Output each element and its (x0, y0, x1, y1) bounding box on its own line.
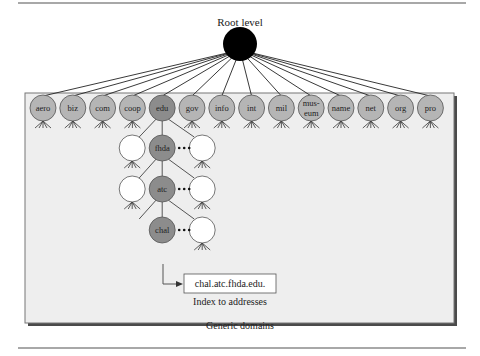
domain-node-biz: biz (60, 95, 86, 121)
domain-label: name (332, 103, 351, 113)
root-edge (162, 50, 240, 96)
dns-tree-diagram: Root level aerobizcomcoopedugovinfointmi… (0, 0, 480, 356)
chain-node-chal: chal (149, 217, 175, 243)
domain-label: pro (425, 103, 436, 113)
domain-label: gov (186, 103, 200, 113)
empty-node (189, 176, 215, 202)
domain-node-org: org (388, 95, 414, 121)
ellipsis-icon (178, 188, 191, 191)
domain-label: info (215, 103, 229, 113)
domain-node-aero: aero (30, 95, 56, 121)
domain-label: coop (124, 103, 141, 113)
domain-node-int: int (239, 95, 265, 121)
domain-label: aero (36, 103, 51, 113)
root-edge (43, 50, 240, 96)
root-edge (132, 50, 240, 96)
root-edge (73, 50, 240, 96)
domain-label: int (247, 103, 257, 113)
ellipsis-icon (178, 147, 191, 150)
domain-node-net: net (358, 95, 384, 121)
domain-label: biz (68, 103, 79, 113)
root-edge (240, 50, 371, 96)
empty-node (119, 135, 145, 161)
ellipsis-icon (178, 229, 191, 232)
empty-node (189, 135, 215, 161)
chain-node-fhda: fhda (149, 135, 175, 161)
empty-node (119, 176, 145, 202)
domain-node-com: com (90, 95, 116, 121)
index-caption: Index to addresses (193, 296, 267, 307)
index-value: chal.atc.fhda.edu. (195, 278, 266, 289)
root-edge (240, 50, 430, 96)
root-node (223, 27, 257, 61)
root-edge (103, 50, 240, 96)
domain-node-museum: mus-eum (298, 95, 324, 121)
domain-label: mus- (303, 98, 320, 108)
svg-text:atc: atc (157, 184, 167, 194)
root-level-label: Root level (217, 16, 263, 28)
domain-node-coop: coop (119, 95, 145, 121)
generic-domains-label: Generic domains (206, 320, 274, 331)
domain-label: com (95, 103, 110, 113)
svg-text:fhda: fhda (155, 143, 170, 153)
domain-node-edu: edu (149, 95, 175, 121)
svg-text:chal: chal (155, 225, 170, 235)
chain-node-atc: atc (149, 176, 175, 202)
domain-label: mil (276, 103, 288, 113)
root-edge (240, 50, 341, 96)
domain-node-info: info (209, 95, 235, 121)
domain-node-gov: gov (179, 95, 205, 121)
domain-label: org (395, 103, 407, 113)
domain-label: eum (304, 108, 319, 118)
domain-label: net (366, 103, 377, 113)
domain-label: edu (156, 103, 169, 113)
domain-node-pro: pro (417, 95, 443, 121)
domain-node-name: name (328, 95, 354, 121)
domain-node-mil: mil (268, 95, 294, 121)
root-edge (240, 50, 401, 96)
empty-node (189, 217, 215, 243)
